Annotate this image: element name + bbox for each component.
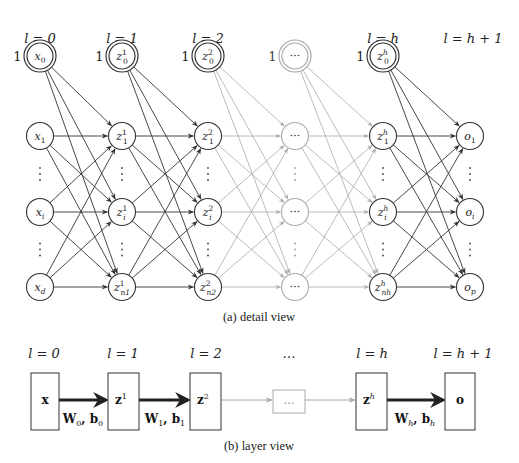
edge-label-w0-b0: W0, b0 <box>62 412 103 428</box>
bias-one-label: 1 <box>181 49 189 64</box>
edge <box>132 65 197 126</box>
bias-one-label: 1 <box>95 49 103 64</box>
edge <box>218 221 284 278</box>
vertical-ellipsis-dot <box>207 249 209 251</box>
vertical-ellipsis-dot <box>469 179 471 181</box>
caption-detail-view: (a) detail view <box>223 310 295 324</box>
vertical-ellipsis-dot <box>469 243 471 245</box>
node-label: ··· <box>290 50 301 63</box>
edge <box>305 145 372 203</box>
vertical-ellipsis-dot <box>121 243 123 245</box>
box-z2 <box>190 373 221 430</box>
lv-label-ellipsis: … <box>283 346 296 361</box>
edge <box>300 69 378 274</box>
edge-label-w1-b1: W1, b1 <box>144 412 185 428</box>
edge <box>393 221 459 278</box>
vertical-ellipsis-dot <box>469 167 471 169</box>
edge <box>393 145 459 203</box>
vertical-ellipsis-dot <box>121 249 123 251</box>
edge <box>390 68 463 200</box>
vertical-ellipsis-dot <box>121 173 123 175</box>
vertical-ellipsis-dot <box>469 255 471 257</box>
vertical-ellipsis-dot <box>382 243 384 245</box>
vertical-ellipsis-dot <box>121 167 123 169</box>
vertical-ellipsis-dot <box>294 179 296 181</box>
layer-view-labels: l = 0 l = 1 l = 2 … l = h l = h + 1 <box>28 346 492 361</box>
edge <box>388 69 465 274</box>
edge <box>218 65 284 126</box>
edge <box>393 221 459 278</box>
vertical-ellipsis-dot <box>39 173 41 175</box>
vertical-ellipsis-dot <box>121 179 123 181</box>
bias-one-label: 1 <box>13 49 21 64</box>
vertical-ellipsis-dot <box>39 179 41 181</box>
vertical-ellipsis-dot <box>39 249 41 251</box>
edge <box>305 221 372 278</box>
vertical-ellipsis-dot <box>207 167 209 169</box>
vertical-ellipsis-dot <box>39 255 41 257</box>
edge <box>215 68 288 200</box>
vertical-ellipsis-dot <box>207 243 209 245</box>
vertical-ellipsis-dot <box>382 249 384 251</box>
edge <box>305 221 372 278</box>
bias-one-label: 1 <box>356 49 364 64</box>
node-label: ··· <box>290 281 301 294</box>
edge <box>215 148 288 275</box>
vertical-ellipsis-dot <box>294 243 296 245</box>
edge <box>46 68 115 199</box>
vertical-ellipsis-dot <box>294 249 296 251</box>
vertical-ellipsis-dot <box>207 179 209 181</box>
vertical-ellipsis-dot <box>207 255 209 257</box>
lv-label-0: l = 0 <box>28 346 60 361</box>
vertical-ellipsis-dot <box>469 249 471 251</box>
vertical-ellipsis-dot <box>294 255 296 257</box>
box-z1 <box>108 373 139 430</box>
edge <box>127 69 203 274</box>
edge <box>393 65 459 126</box>
vertical-ellipsis-dot <box>39 167 41 169</box>
mlp-diagram: l = 0 l = 1 l = 2 … l = h l = h + 1 x01x… <box>0 0 519 463</box>
edge <box>45 69 118 274</box>
layer-label-h-plus-1: l = h + 1 <box>443 31 502 46</box>
diagram-svg: l = 0 l = 1 l = 2 … l = h l = h + 1 x01x… <box>0 0 519 463</box>
lv-label-h-plus-1: l = h + 1 <box>433 346 492 361</box>
edge <box>302 148 376 275</box>
lv-label-1: l = 1 <box>107 346 139 361</box>
lv-label-2: l = 2 <box>190 346 222 361</box>
edge <box>302 68 376 200</box>
box-zh <box>356 373 387 430</box>
edge <box>129 68 201 199</box>
vertical-ellipsis-dot <box>382 255 384 257</box>
edge <box>50 221 111 277</box>
vertical-ellipsis-dot <box>382 173 384 175</box>
vertical-ellipsis-dot <box>294 167 296 169</box>
vertical-ellipsis-dot <box>469 173 471 175</box>
box-o-label: o <box>456 393 464 407</box>
edge-label-wh-bh: Wh, bh <box>394 412 436 428</box>
edge <box>213 69 290 274</box>
bias-one-label: 1 <box>268 49 276 64</box>
vertical-ellipsis-dot <box>207 173 209 175</box>
caption-layer-view: (b) layer view <box>224 439 294 453</box>
vertical-ellipsis-dot <box>294 173 296 175</box>
vertical-ellipsis-dot <box>121 255 123 257</box>
detail-layer-labels: l = 0 l = 1 l = 2 … l = h l = h + 1 <box>24 31 502 46</box>
edge <box>218 145 284 203</box>
connection-edges <box>45 65 465 287</box>
edge <box>305 65 372 126</box>
edge <box>50 65 112 125</box>
lv-label-h: l = h <box>356 346 388 361</box>
node-label: ··· <box>290 130 301 143</box>
vertical-ellipsis-dot <box>382 179 384 181</box>
edge <box>132 221 197 278</box>
box-x-label: x <box>41 393 49 407</box>
node-label: ··· <box>290 206 301 219</box>
vertical-ellipsis-dot <box>382 167 384 169</box>
edge <box>218 221 284 278</box>
vertical-ellipsis-dot <box>39 243 41 245</box>
box-ellipsis-label: … <box>284 394 295 407</box>
